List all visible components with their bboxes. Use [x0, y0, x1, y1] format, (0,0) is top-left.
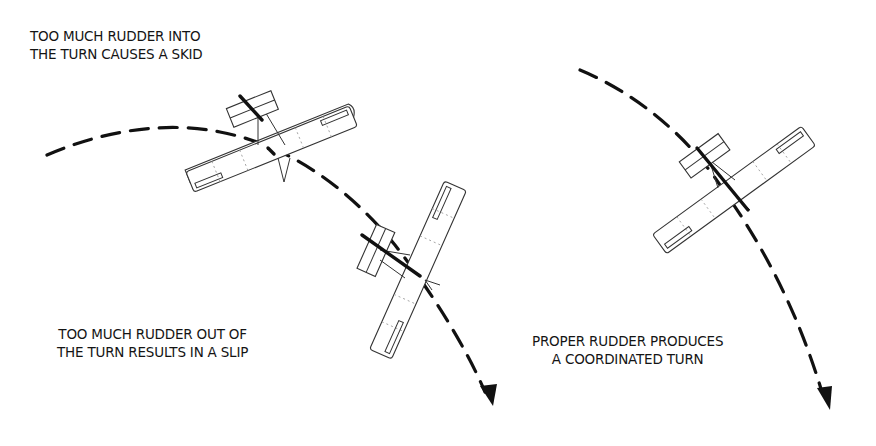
slip-caption: TOO MUCH RUDDER OUT OF THE TURN RESULTS …: [57, 325, 248, 361]
skid-caption-line-1: TOO MUCH RUDDER INTO: [30, 27, 203, 45]
rudder-turn-diagram: [0, 0, 876, 446]
coordinated-caption-line-1: PROPER RUDDER PRODUCES: [532, 332, 723, 350]
skid-caption-line-2: THE TURN CAUSES A SKID: [30, 45, 203, 63]
slip-caption-line-2: THE TURN RESULTS IN A SLIP: [57, 343, 248, 361]
slip-aircraft: [357, 181, 466, 359]
airplane-icon: [653, 126, 816, 254]
skid-caption: TOO MUCH RUDDER INTO THE TURN CAUSES A S…: [30, 27, 203, 63]
coordinated-caption: PROPER RUDDER PRODUCES A COORDINATED TUR…: [532, 332, 723, 368]
coordinated-aircraft: [653, 126, 816, 254]
slip-caption-line-1: TOO MUCH RUDDER OUT OF: [57, 325, 248, 343]
skid-aircraft: [185, 91, 360, 193]
coordinated-caption-line-2: A COORDINATED TURN: [532, 350, 723, 368]
airplane-icon: [370, 181, 467, 359]
airplane-icon: [185, 103, 360, 192]
arrowhead-icon: [817, 386, 832, 410]
arrowhead-icon: [480, 384, 497, 406]
